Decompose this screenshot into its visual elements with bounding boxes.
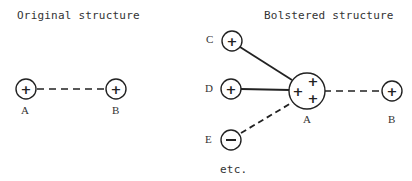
svg-text:+: + <box>293 84 304 99</box>
label-d: D <box>205 82 213 94</box>
node-d: + <box>221 79 241 99</box>
svg-text:+: + <box>227 34 238 49</box>
label-e: E <box>205 133 212 145</box>
left-node-b: + <box>106 79 126 99</box>
left-node-a: + <box>16 79 36 99</box>
edge-d-a <box>241 89 290 90</box>
node-a-large: + + + <box>289 73 325 109</box>
svg-text:+: + <box>308 74 319 89</box>
svg-text:+: + <box>21 82 32 97</box>
svg-text:+: + <box>308 91 319 106</box>
label-a: A <box>303 113 311 125</box>
etc-footnote: etc. <box>220 163 247 176</box>
label-b: B <box>388 113 395 125</box>
node-e <box>221 130 241 150</box>
svg-text:+: + <box>111 82 122 97</box>
node-b: + <box>382 81 402 101</box>
svg-text:+: + <box>387 84 398 99</box>
label-c: C <box>206 33 213 45</box>
edge-e-a <box>241 102 293 133</box>
node-c: + <box>222 31 242 51</box>
edge-c-a <box>240 47 292 80</box>
left-label-a: A <box>21 104 29 116</box>
left-label-b: B <box>112 104 119 116</box>
svg-text:+: + <box>226 82 237 97</box>
